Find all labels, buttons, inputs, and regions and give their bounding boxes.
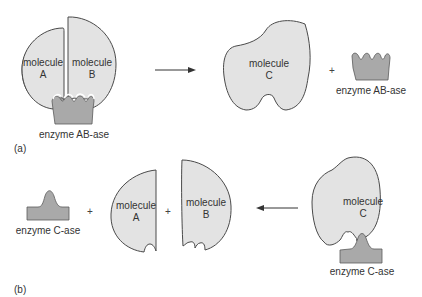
panel-b-label: (b) (14, 284, 26, 295)
molecule-c-bound-label-line2: C (359, 208, 366, 219)
plus-sign-a: + (329, 65, 335, 76)
molecule-b-label-line2: B (89, 69, 96, 80)
molecule-b-label-line1: molecule (72, 57, 112, 68)
molecule-a-released-label-line2: A (133, 212, 140, 223)
molecule-a-released-label-line1: molecule (116, 200, 156, 211)
enzyme-c-ase-caption-right: enzyme C-ase (330, 266, 395, 277)
enzyme-c-ase-free (27, 191, 69, 220)
enzyme-ab-ase-bound (52, 96, 94, 124)
molecule-a-label-line1: molecule (23, 57, 63, 68)
molecule-c-label-line1: molecule (249, 58, 289, 69)
panel-a-label: (a) (14, 143, 26, 154)
enzyme-ab-ase-caption-left: enzyme AB-ase (39, 129, 109, 140)
reaction-arrow-right (155, 67, 196, 73)
molecule-c-label-line2: C (265, 70, 272, 81)
plus-sign-b2: + (165, 206, 171, 217)
molecule-b-released-label-line1: molecule (186, 197, 226, 208)
molecule-b-released-label-line2: B (203, 209, 210, 220)
plus-sign-b1: + (87, 206, 93, 217)
enzyme-c-ase-caption-left: enzyme C-ase (16, 225, 81, 236)
panel-b: enzyme C-ase + molecule A + molecule B m… (14, 157, 395, 295)
enzyme-ab-ase-free (352, 53, 390, 80)
molecule-c-bound-label-line1: molecule (343, 196, 383, 207)
reaction-arrow-left (256, 205, 298, 211)
enzyme-ab-ase-caption-right: enzyme AB-ase (336, 85, 406, 96)
panel-a: molecule A molecule B enzyme AB-ase (a) … (14, 17, 406, 154)
molecule-a-released (111, 170, 156, 252)
molecule-a-label-line2: A (40, 69, 47, 80)
enzyme-c-ase-bound (340, 234, 382, 264)
enzyme-reaction-diagram: molecule A molecule B enzyme AB-ase (a) … (0, 0, 422, 297)
